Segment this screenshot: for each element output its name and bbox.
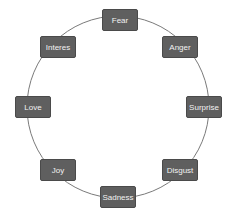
node-sadness: Sadness bbox=[100, 186, 136, 208]
node-joy: Joy bbox=[40, 159, 76, 181]
node-fear: Fear bbox=[102, 9, 138, 31]
node-disgust: Disgust bbox=[162, 159, 198, 181]
node-love: Love bbox=[15, 96, 51, 118]
node-interest: Interes bbox=[40, 36, 76, 58]
node-anger: Anger bbox=[162, 36, 198, 58]
node-surprise: Surprise bbox=[186, 96, 222, 118]
